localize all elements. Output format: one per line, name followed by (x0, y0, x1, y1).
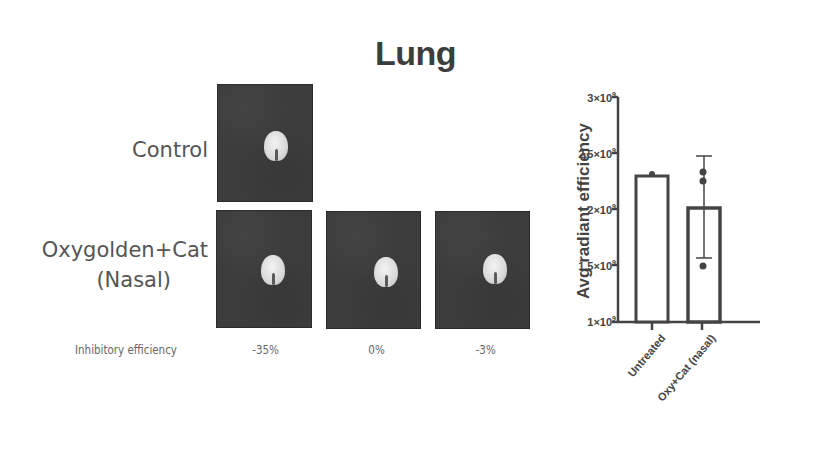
row-label-control: Control (60, 136, 208, 164)
image-panel-treated-3 (435, 211, 530, 329)
image-panel-treated-2 (326, 211, 421, 329)
row-label-route: (Nasal) (20, 266, 171, 294)
bar-chart: Avg radiant efficiency 3×109 2.5×109 2×1… (560, 80, 800, 460)
image-panel-control (217, 84, 313, 202)
inhibitory-efficiency-label: Inhibitory efficiency (75, 343, 177, 357)
figure-title: Lung (375, 34, 456, 73)
chart-plot (560, 80, 800, 350)
image-panel-treated-1 (216, 210, 312, 328)
lung-image (264, 131, 288, 161)
lung-image (374, 257, 398, 287)
inhibitory-value-2: 0% (368, 343, 384, 357)
inhibitory-value-3: -3% (476, 343, 496, 357)
bar-untreated (636, 176, 668, 322)
lung-image (483, 254, 507, 284)
lung-image (261, 255, 285, 285)
row-label-treatment: Oxygolden+Cat (20, 236, 208, 264)
inhibitory-value-1: -35% (252, 343, 279, 357)
